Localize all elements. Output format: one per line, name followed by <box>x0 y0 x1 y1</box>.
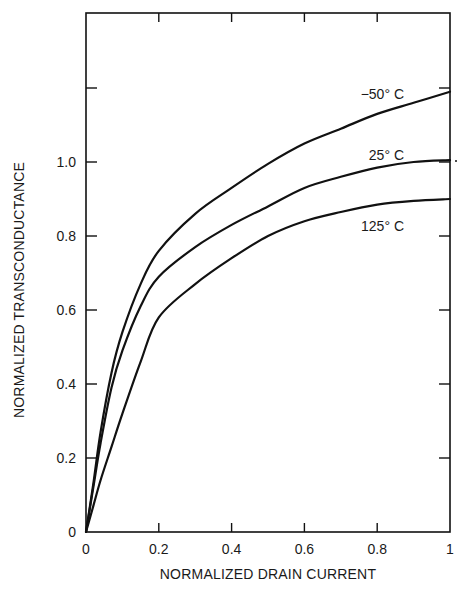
y-tick-label: 0.6 <box>57 302 77 318</box>
y-tick-label: 1.0 <box>57 154 77 170</box>
series-label: 25° C <box>369 147 404 163</box>
series-label: −50° C <box>361 86 404 102</box>
y-tick-label: 0.8 <box>57 228 77 244</box>
y-tick-label: 0.4 <box>57 376 77 392</box>
y-axis-label: NORMALIZED TRANSCONDUCTANCE <box>11 162 27 418</box>
y-axis-title: NORMALIZED TRANSCONDUCTANCE <box>4 0 34 599</box>
x-tick-label: 0.4 <box>222 541 242 557</box>
x-tick-label: 0.2 <box>149 541 169 557</box>
x-tick-label: 0.8 <box>367 541 387 557</box>
chart-plot: 00.20.40.60.8100.20.40.60.81.0 −50° C25°… <box>0 0 459 599</box>
x-tick-label: 0 <box>82 541 90 557</box>
series-label: 125° C <box>361 218 404 234</box>
curve-25c <box>86 160 450 532</box>
y-tick-label: 0.2 <box>57 450 77 466</box>
y-tick-label: 0 <box>68 524 76 540</box>
x-tick-label: 0.6 <box>295 541 315 557</box>
x-tick-label: 1 <box>446 541 454 557</box>
curve-125c <box>86 199 450 532</box>
x-axis-label: NORMALIZED DRAIN CURRENT <box>86 566 450 582</box>
stray-dot <box>455 160 457 162</box>
